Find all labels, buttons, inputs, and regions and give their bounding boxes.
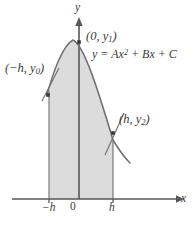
parabola-figure: y x (0, y1) y = Ax2 + Bx + C (−h, y0) (h… [0, 0, 192, 226]
right-close-paren: ) [145, 112, 149, 126]
left-x-value: −h [9, 61, 24, 75]
shaded-area-under-curve [49, 40, 113, 199]
x-axis-label: x [181, 193, 186, 205]
point-label-right: (h, y2) [119, 113, 150, 127]
point-label-vertex: (0, y1) [86, 30, 117, 44]
curve-equation-label: y = Ax2 + Bx + C [92, 48, 177, 60]
vertex-close-paren: ) [112, 29, 116, 43]
x-tick-label-negative-h: −h [42, 202, 56, 214]
point-label-left: (−h, y0) [5, 62, 44, 76]
equation-term-a: Ax [111, 47, 124, 61]
equation-term-b: + Bx [128, 47, 155, 61]
x-tick-label-h: h [109, 202, 115, 214]
y-axis-label: y [75, 2, 80, 14]
point-marker-left [46, 93, 50, 97]
x-tick-label-origin: 0 [70, 201, 76, 213]
left-close-paren: ) [40, 61, 44, 75]
equation-equals: = [97, 47, 111, 61]
y-axis-arrowhead [75, 17, 82, 26]
point-marker-right [111, 131, 115, 135]
point-marker-vertex [77, 40, 81, 44]
equation-term-c: + C [155, 47, 177, 61]
